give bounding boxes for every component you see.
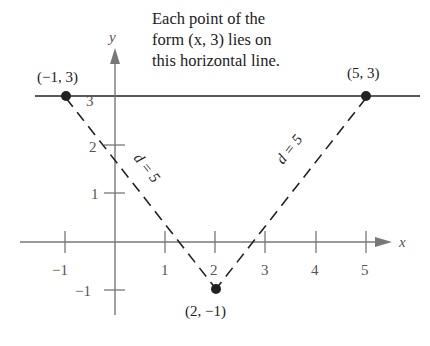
x-tick-label: −1 <box>52 262 68 278</box>
x-axis-label: x <box>398 234 406 250</box>
x-tick-label: 4 <box>311 262 319 278</box>
segment-label-left: d = 5 <box>131 150 164 186</box>
dashed-segment-right <box>216 98 366 289</box>
y-tick-label: −1 <box>75 283 91 299</box>
y-tick-label: 2 <box>89 139 97 155</box>
dashed-segment-left <box>66 98 216 289</box>
x-tick-label: 3 <box>261 262 269 278</box>
point-2-neg1 <box>211 284 221 294</box>
x-tick-label: 5 <box>361 262 369 278</box>
x-axis-arrow-icon <box>375 237 392 247</box>
x-tick-label: 1 <box>161 262 169 278</box>
point-label: (2, −1) <box>185 303 226 320</box>
x-tick-label: 2 <box>210 262 218 278</box>
point-label: (−1, 3) <box>37 69 78 86</box>
y-axis-arrow-icon <box>110 48 120 64</box>
point-label: (5, 3) <box>347 65 380 82</box>
y-axis-label: y <box>107 29 116 45</box>
point-5-3 <box>361 91 371 101</box>
point-neg1-3 <box>61 91 71 101</box>
y-tick-label: 3 <box>86 93 94 109</box>
coordinate-plane: y x −1 1 2 3 4 5 3 2 1 −1 (−1, 3) (5, 3)… <box>0 0 430 346</box>
y-tick-label: 1 <box>91 186 99 202</box>
segment-label-right: d = 5 <box>273 131 306 167</box>
